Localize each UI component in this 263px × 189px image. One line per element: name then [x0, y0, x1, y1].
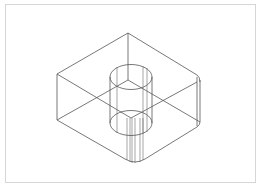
drawing-canvas — [0, 0, 263, 189]
block-vertical-edges — [57, 33, 200, 163]
cylinder — [110, 65, 152, 136]
wireframe-drawing — [0, 0, 263, 189]
block-top-face — [57, 33, 200, 118]
